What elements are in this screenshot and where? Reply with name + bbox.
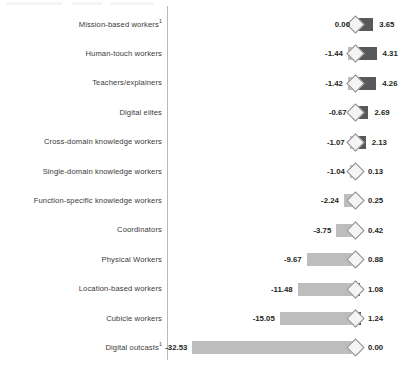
chart-row: Mission-based workers10.003.65 (0, 10, 408, 38)
chart-row: Digital outcasts1-32.530.00 (0, 333, 408, 361)
row-plot: -11.481.08 (168, 275, 408, 303)
cropped-title-remnant (6, 0, 236, 7)
category-label: Human-touch workers (0, 49, 162, 58)
value-marker-diamond (346, 162, 364, 180)
row-plot: 0.003.65 (168, 10, 408, 38)
value-label-negative: -11.48 (271, 284, 293, 295)
chart-row: Cross-domain knowledge workers-1.072.13 (0, 128, 408, 156)
chart-row: Teachers/explainers-1.424.26 (0, 69, 408, 97)
category-label: Digital outcasts1 (0, 343, 162, 352)
category-label: Cubicle workers (0, 314, 162, 323)
value-label-positive: 2.13 (372, 137, 387, 148)
category-label: Coordinators (0, 225, 162, 234)
value-label-positive: 0.42 (368, 225, 383, 236)
row-plot: -3.750.42 (168, 216, 408, 244)
chart-row: Function-specific knowledge workers-2.24… (0, 186, 408, 214)
category-label: Single-domain knowledge workers (0, 167, 162, 176)
diverging-bar-chart: Mission-based workers10.003.65Human-touc… (0, 0, 408, 371)
chart-row: Digital elites-0.672.69 (0, 98, 408, 126)
value-label-positive: 0.00 (368, 342, 383, 353)
category-label: Cross-domain knowledge workers (0, 137, 162, 146)
value-label-negative: -3.75 (313, 225, 331, 236)
value-label-negative: -15.05 (253, 313, 275, 324)
category-label: Mission-based workers1 (0, 20, 162, 29)
row-plot: -1.072.13 (168, 128, 408, 156)
value-label-negative: 0.00 (335, 19, 350, 30)
row-plot: -9.670.88 (168, 245, 408, 273)
value-label-positive: 1.24 (368, 313, 383, 324)
row-plot: -15.051.24 (168, 304, 408, 332)
row-plot: -1.040.13 (168, 157, 408, 185)
chart-row: Cubicle workers-15.051.24 (0, 304, 408, 332)
row-plot: -32.530.00 (168, 333, 408, 361)
chart-row: Single-domain knowledge workers-1.040.13 (0, 157, 408, 185)
value-label-negative: -1.44 (325, 48, 343, 59)
value-label-positive: 4.26 (382, 78, 397, 89)
value-label-negative: -1.07 (327, 137, 345, 148)
row-plot: -0.672.69 (168, 98, 408, 126)
category-label: Digital elites (0, 108, 162, 117)
footnote-marker: 1 (159, 18, 162, 24)
value-label-negative: -1.42 (325, 78, 343, 89)
chart-row: Location-based workers-11.481.08 (0, 275, 408, 303)
category-label: Location-based workers (0, 284, 162, 293)
row-plot: -2.240.25 (168, 186, 408, 214)
value-label-positive: 0.25 (368, 195, 383, 206)
value-label-negative: -0.67 (329, 107, 347, 118)
chart-row: Coordinators-3.750.42 (0, 216, 408, 244)
row-plot: -1.444.31 (168, 39, 408, 67)
value-label-positive: 4.31 (383, 48, 398, 59)
value-label-negative: -32.53 (165, 342, 187, 353)
value-label-negative: -9.67 (284, 254, 302, 265)
row-plot: -1.424.26 (168, 69, 408, 97)
value-label-positive: 3.65 (379, 19, 394, 30)
footnote-marker: 1 (159, 341, 162, 347)
bar-segment-negative (192, 341, 355, 354)
value-label-positive: 0.13 (368, 166, 383, 177)
value-label-positive: 1.08 (368, 284, 383, 295)
category-label: Teachers/explainers (0, 78, 162, 87)
value-label-negative: -1.04 (327, 166, 345, 177)
value-label-negative: -2.24 (321, 195, 339, 206)
chart-row: Physical Workers-9.670.88 (0, 245, 408, 273)
category-label: Function-specific knowledge workers (0, 196, 162, 205)
bar-segment-negative (280, 312, 355, 325)
chart-row: Human-touch workers-1.444.31 (0, 39, 408, 67)
category-label: Physical Workers (0, 255, 162, 264)
value-label-positive: 0.88 (368, 254, 383, 265)
value-label-positive: 2.69 (374, 107, 389, 118)
